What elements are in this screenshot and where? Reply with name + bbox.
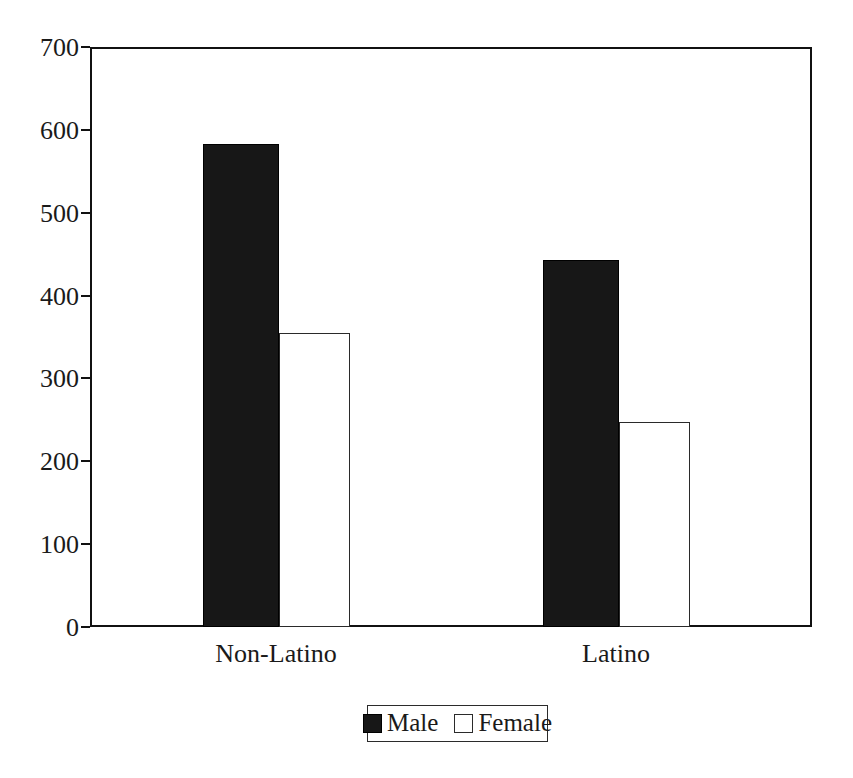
legend-item-female: Female xyxy=(454,711,552,736)
y-axis-tick-label: 200 xyxy=(40,449,90,475)
y-axis-tick-label: 700 xyxy=(40,35,90,61)
y-axis-tick-label: 500 xyxy=(40,201,90,227)
bar-non-latino-female xyxy=(279,333,350,627)
legend-label: Female xyxy=(478,710,552,735)
bar-non-latino-male xyxy=(203,144,279,627)
legend-swatch-male-icon xyxy=(363,714,382,733)
y-axis-tick-mark xyxy=(81,212,90,214)
y-axis-tick-mark xyxy=(81,46,90,48)
y-axis-tick-mark xyxy=(81,129,90,131)
y-axis-tick-label: 600 xyxy=(40,118,90,144)
x-axis-category-label: Non-Latino xyxy=(215,640,336,669)
x-axis-category-label: Latino xyxy=(582,640,650,669)
y-axis-tick-label: 300 xyxy=(40,366,90,392)
y-axis-tick-label: 400 xyxy=(40,284,90,310)
y-axis: 7006005004003002001000 xyxy=(0,0,90,680)
y-axis-tick-mark xyxy=(81,460,90,462)
chart-legend: MaleFemale xyxy=(367,705,548,742)
legend-swatch-female-icon xyxy=(454,714,473,733)
y-axis-tick-label: 100 xyxy=(40,532,90,558)
bar-latino-female xyxy=(619,422,690,627)
legend-item-male: Male xyxy=(363,711,438,736)
y-axis-tick-mark xyxy=(81,295,90,297)
x-axis: Non-LatinoLatino xyxy=(90,640,812,686)
legend-label: Male xyxy=(387,710,438,735)
bars-layer xyxy=(90,47,812,627)
bar-chart: 7006005004003002001000 Non-LatinoLatino … xyxy=(0,0,853,778)
y-axis-tick-mark xyxy=(81,626,90,628)
y-axis-tick-mark xyxy=(81,543,90,545)
y-axis-tick-label: 0 xyxy=(66,615,90,641)
bar-latino-male xyxy=(543,260,619,627)
y-axis-tick-mark xyxy=(81,377,90,379)
